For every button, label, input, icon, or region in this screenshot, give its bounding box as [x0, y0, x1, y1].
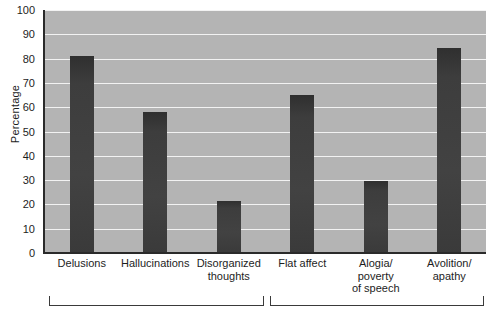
- x-tick-label-line: Flat affect: [266, 257, 340, 270]
- bar: [437, 48, 461, 253]
- gridline: [45, 107, 486, 108]
- y-tick-label: 100: [17, 4, 35, 16]
- gridline: [45, 180, 486, 181]
- x-tick-label: Alogia/povertyof speech: [339, 257, 413, 295]
- x-tick-label: Hallucinations: [119, 257, 193, 270]
- x-tick-label-line: of speech: [339, 282, 413, 295]
- gridline: [45, 229, 486, 230]
- bar: [143, 112, 167, 253]
- x-tick-label-line: Hallucinations: [119, 257, 193, 270]
- gridline: [45, 10, 486, 11]
- bar-chart: Percentage 1009080706050403020100 Delusi…: [0, 0, 486, 314]
- y-tick-label: 90: [23, 28, 35, 40]
- gridline: [45, 34, 486, 35]
- bar: [70, 56, 94, 253]
- y-tick-label: 30: [23, 174, 35, 186]
- y-tick-label: 20: [23, 198, 35, 210]
- x-tick-label: Delusions: [45, 257, 119, 270]
- y-tick-label: 60: [23, 101, 35, 113]
- gridline: [45, 204, 486, 205]
- bar: [290, 95, 314, 253]
- x-tick-label: Avolition/apathy: [413, 257, 486, 282]
- y-tick-label: 0: [29, 247, 35, 259]
- bar: [217, 201, 241, 253]
- y-tick-label: 10: [23, 223, 35, 235]
- x-tick-label-line: Avolition/: [413, 257, 486, 270]
- y-tick-label: 80: [23, 53, 35, 65]
- y-tick-label: 40: [23, 150, 35, 162]
- x-tick-label: Flat affect: [266, 257, 340, 270]
- x-tick-label-line: Alogia/: [339, 257, 413, 270]
- x-tick-label-line: thoughts: [192, 270, 266, 283]
- gridline: [45, 156, 486, 157]
- group-bracket: [270, 296, 485, 306]
- gridline: [45, 83, 486, 84]
- y-tick-label: 70: [23, 77, 35, 89]
- x-tick-label-line: poverty: [339, 270, 413, 283]
- y-tick-label: 50: [23, 126, 35, 138]
- x-tick-label-line: Delusions: [45, 257, 119, 270]
- group-bracket: [49, 296, 264, 306]
- x-tick-label-line: Disorganized: [192, 257, 266, 270]
- x-tick-label: Disorganizedthoughts: [192, 257, 266, 282]
- plot-area: [45, 10, 486, 253]
- x-axis-line: [43, 252, 486, 254]
- gridline: [45, 132, 486, 133]
- y-axis-tick-labels: 1009080706050403020100: [0, 10, 40, 253]
- x-tick-label-line: apathy: [413, 270, 486, 283]
- bar: [364, 181, 388, 253]
- gridline: [45, 59, 486, 60]
